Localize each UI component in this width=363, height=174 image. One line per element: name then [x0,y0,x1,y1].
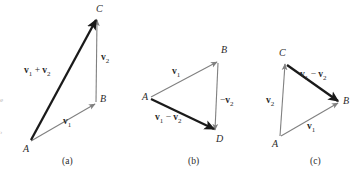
point-label-B-panel-b: B [221,45,227,55]
point-label-D-panel-b: D [216,134,223,144]
vector-label-minus-v2-panel-b: −v2 [220,96,234,108]
vector-label-v2-panel-a: v2 [101,53,109,65]
point-label-A-panel-b: A [142,92,148,102]
vector-label-v1-minus-v2-panel-c: v1 − v2 [300,70,327,82]
arrow-v1-panel-b [151,62,217,97]
vector-label-v1-panel-a: v1 [63,117,71,129]
point-label-C-panel-a: C [96,4,103,14]
vector-arrows-canvas [0,0,363,174]
point-label-B-panel-c: B [343,96,349,106]
caption-panel-a: (a) [62,156,73,166]
vector-label-v1-minus-v2-panel-b: v1 − v2 [155,113,182,125]
point-label-A-panel-c: A [272,139,278,149]
vector-label-v1-panel-c: v1 [307,122,315,134]
vector-label-v2-panel-c: v2 [266,96,274,108]
caption-panel-c: (c) [310,156,321,166]
left-edge-mark-c-icon: e [0,96,3,104]
caption-panel-b: (b) [188,156,199,166]
point-label-A-panel-a: A [23,144,29,154]
vector-label-v1-plus-v2-panel-a: v1 + v2 [24,66,51,78]
vector-figure: A B C v1 + v2 v2 v1 (a) A B D v1 −v2 v1 … [0,0,363,174]
point-label-C-panel-c: C [279,48,286,58]
arrow-minus-v2-panel-b [215,63,218,130]
left-edge-mark-icon: › [0,128,2,136]
arrow-v2-panel-c [280,64,285,136]
arrow-v2-panel-a [96,20,97,102]
point-label-B-panel-a: B [100,94,106,104]
vector-label-v1-panel-b: v1 [172,67,180,79]
